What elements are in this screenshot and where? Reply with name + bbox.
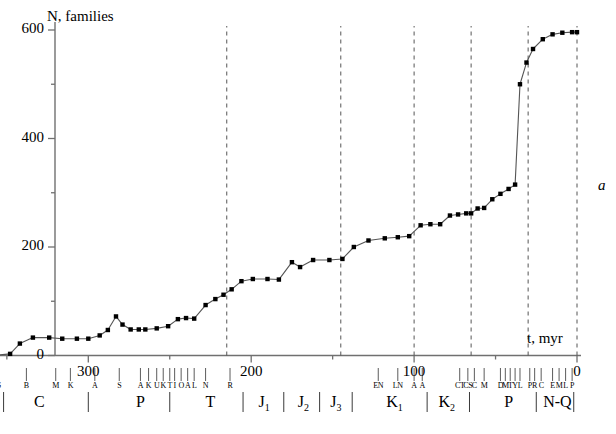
period-label-subscript: 3 [337,402,342,413]
data-point-marker [469,211,473,215]
period-label-subscript: 1 [398,402,403,413]
data-point-marker [184,316,188,320]
stage-code-label: A [185,382,190,390]
stage-code-label: LN [393,382,403,390]
y-axis-tick-label: 600 [8,21,44,36]
stage-code-label: B [24,382,29,390]
geologic-period-label: C [34,394,45,410]
data-point-marker [176,317,180,321]
data-point-marker [352,245,356,249]
geologic-period-label: P [136,394,145,410]
data-point-marker [383,236,387,240]
data-point-marker [298,265,302,269]
data-point-marker [75,336,79,340]
data-point-marker [475,206,479,210]
data-point-marker [60,336,64,340]
data-point-marker [524,60,528,64]
data-point-markers [0,30,579,358]
series-polyline [0,32,577,355]
data-point-marker [277,277,281,281]
data-point-marker [120,322,124,326]
x-axis-tick-label: 300 [58,364,118,379]
geologic-period-label: T [206,394,216,410]
data-point-marker [438,222,442,226]
stage-code-label: E [550,382,555,390]
data-point-marker [137,327,141,331]
data-point-marker [506,187,510,191]
stage-code-label: C [472,382,477,390]
data-point-marker [290,260,294,264]
data-point-marker [229,287,233,291]
stage-code-label: L [563,382,568,390]
stage-code-label: T [167,382,172,390]
data-point-marker [513,182,517,186]
x-axis-tick-label: 0 [547,364,607,379]
data-point-marker [18,341,22,345]
y-axis-title: N, families [47,9,114,24]
stage-code-label: K [146,382,151,390]
data-point-marker [418,223,422,227]
x-axis-title: t, myr [527,331,563,346]
data-point-marker [498,192,502,196]
period-label-subscript: 2 [304,402,309,413]
data-point-marker [47,335,51,339]
data-point-marker [531,47,535,51]
data-point-marker [114,314,118,318]
geologic-period-label: K2 [438,394,455,413]
stage-code-label: M [481,382,488,390]
period-boundary-lines [227,26,577,356]
stage-code-label: K [68,382,73,390]
data-point-marker [541,37,545,41]
data-point-marker [239,279,243,283]
stage-code-label: P [570,382,574,390]
data-point-marker [340,257,344,261]
stage-code-label: K [160,382,165,390]
data-point-marker [428,222,432,226]
figure-panel-a: N, families t, myr a 0200400600 30020010… [0,0,616,434]
data-point-marker [155,326,159,330]
stage-code-label: A [92,382,97,390]
stage-code-label: A [138,382,143,390]
data-point-marker [570,30,574,34]
data-point-marker [456,212,460,216]
x-axis-tick-label: 200 [221,364,281,379]
x-axis-tick-label: 100 [384,364,444,379]
data-point-marker [518,82,522,86]
data-point-marker [203,303,207,307]
stage-code-label: S [117,382,121,390]
data-point-marker [396,235,400,239]
y-axis-tick-label: 200 [8,238,44,253]
stage-code-label: M [52,382,59,390]
stage-code-label: M [556,382,563,390]
stage-code-label: A [411,382,416,390]
geologic-period-label: K1 [386,394,403,413]
stage-code-label: L [192,382,197,390]
data-point-marker [311,258,315,262]
data-point-marker [464,211,468,215]
data-point-marker [98,333,102,337]
stage-code-label: L [518,382,523,390]
axes [0,22,581,363]
data-point-marker [192,316,196,320]
data-point-marker [166,324,170,328]
data-series-line [0,32,577,355]
data-point-marker [86,336,90,340]
data-point-marker [490,197,494,201]
geologic-period-label: P [504,394,513,410]
geologic-period-label: N-Q [543,394,571,410]
data-point-marker [482,206,486,210]
stage-code-label: C [539,382,544,390]
stage-code-label: N [203,382,208,390]
period-label-subscript: 2 [450,402,455,413]
stage-code-label: O [178,382,183,390]
data-point-marker [265,277,269,281]
data-point-marker [143,327,147,331]
stage-code-label: S [0,382,1,390]
stage-code-label: U [154,382,159,390]
stage-code-label: R [227,382,232,390]
stage-code-label: R [532,382,537,390]
data-point-marker [221,293,225,297]
geologic-period-label: J2 [298,394,309,413]
data-point-marker [213,297,217,301]
data-point-marker [366,238,370,242]
